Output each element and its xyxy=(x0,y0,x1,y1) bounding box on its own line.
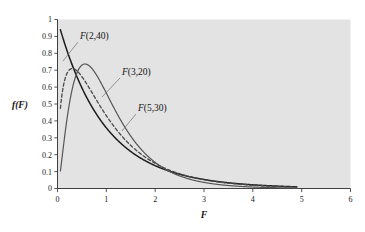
label-f-2-40: F(2,40) xyxy=(79,31,109,42)
x-tick-label: 3 xyxy=(202,195,206,204)
x-axis-title: F xyxy=(200,210,208,220)
y-tick-label: 0.4 xyxy=(42,117,52,126)
chart-figure: 00.10.20.30.40.50.60.70.80.91 0123456 F(… xyxy=(0,0,365,232)
f-distribution-chart: 00.10.20.30.40.50.60.70.80.91 0123456 F(… xyxy=(0,0,365,232)
y-tick-label: 0.8 xyxy=(42,49,52,58)
x-tick-label: 4 xyxy=(251,195,255,204)
label-f-3-20: F(3,20) xyxy=(121,67,151,78)
plot-area-background xyxy=(58,20,351,189)
y-tick-label: 0.3 xyxy=(42,134,52,143)
x-tick-label: 5 xyxy=(300,195,304,204)
y-tick-label: 0.1 xyxy=(42,168,52,177)
y-tick-label: 0.6 xyxy=(42,83,52,92)
y-axis-title: f(F) xyxy=(12,100,28,111)
x-tick-label: 0 xyxy=(56,195,60,204)
y-tick-label: 0 xyxy=(48,184,52,193)
y-tick-label: 0.2 xyxy=(42,151,52,160)
x-tick-label: 6 xyxy=(349,195,353,204)
label-f-5-30: F(5,30) xyxy=(137,103,167,114)
x-tick-label: 2 xyxy=(153,195,157,204)
y-tick-label: 0.9 xyxy=(42,32,52,41)
x-tick-label: 1 xyxy=(104,195,108,204)
y-tick-label: 0.7 xyxy=(42,66,52,75)
y-tick-label: 1 xyxy=(48,15,52,24)
y-tick-label: 0.5 xyxy=(42,100,52,109)
